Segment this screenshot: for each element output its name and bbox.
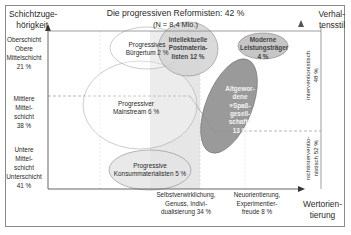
x-axis-label-line1: Wertorien- [303,199,342,210]
y-class-upper-value: 21 % [2,63,46,72]
segment-label-line: listen 12 % [163,53,213,61]
right-label-nichtinterventionist: nichtinterventio- nistisch 52 % [304,126,321,190]
segment-label-altgewordene-spassgesellschaft: Altgewor- dene »Spaß- gesell- schaft« 13… [220,85,260,135]
segment-label-line: 13 % [220,127,260,135]
segment-label-progressiver-mainstream: Progressiver Mainstream 6 % [106,100,166,117]
segment-label-line: Intellektuelle [163,36,213,44]
y-axis-label: Schichtzuge- hörigkeit [9,9,57,32]
segment-label-progressive-konsummaterialisten: Progressive Konsummaterialisten 5 % [108,162,192,179]
x-category-line: dualisierung 34 % [148,208,224,217]
y-class-middle-line: Mittlere [2,95,46,104]
segment-label-line: Mainstream 6 % [106,108,166,116]
segment-label-line: Konsummaterialisten 5 % [108,170,192,178]
right-axis-label: Verhal- tensstil [318,9,345,32]
x-category-line: Selbstverwirklichung, [148,191,224,200]
y-class-upper-line: Mittelschicht [2,54,46,63]
y-class-lower-line: Unterschicht [2,173,46,182]
segment-label-line: 4 % [240,53,286,61]
y-class-lower-line: Mittel- [2,155,46,164]
right-label-upper-value: 48 % [312,45,320,105]
right-label-interventionist: interventionistisch 48 % [304,45,321,105]
y-class-lower-line: schicht [2,164,46,173]
right-axis-label-line2: tensstil [318,20,345,31]
y-class-middle-value: 38 % [2,122,46,131]
x-category-line: Genuss, Indivi- [148,200,224,209]
x-category-line: Neuorientierung, [227,191,287,200]
right-label-lower-line2: nistisch 52 % [312,126,320,190]
segment-label-intellektuelle-postmaterialisten: Intellektuelle Postmateria- listen 12 % [163,36,213,61]
x-category-neuorientierung: Neuorientierung, Experimentier- freude 8… [227,191,287,217]
y-class-middle: Mittlere Mittel- schicht 38 % [2,95,46,131]
y-class-middle-line: Mittel- [2,104,46,113]
segment-label-line: Leistungsträger [240,44,286,52]
segment-label-line: Progressive [108,162,192,170]
y-class-lower-line: Untere [2,146,46,155]
segment-label-line: Progressiver [106,100,166,108]
segment-label-moderne-leistungstraeger: Moderne Leistungsträger 4 % [240,36,286,61]
x-category-line: freude 8 % [227,208,287,217]
right-label-upper-line1: interventionistisch [304,45,312,105]
x-category-selbstverwirklichung: Selbstverwirklichung, Genuss, Indivi- du… [148,191,224,217]
y-axis-label-line2: hörigkeit [0,20,48,31]
segment-label-line: Moderne [240,36,286,44]
segment-label-line: dene [220,93,260,101]
x-axis-label: Wertorien- tierung [303,199,342,222]
y-class-lower: Untere Mittel- schicht Unterschicht 41 % [2,146,46,191]
segment-label-line: Postmateria- [163,44,213,52]
segment-label-line: Altgewor- [220,85,260,93]
y-class-upper-line: Obere [2,45,46,54]
segment-label-line: gesell- [220,110,260,118]
y-class-middle-line: schicht [2,113,46,122]
x-category-line: Experimentier- [227,200,287,209]
segment-label-line: schaft« [220,118,260,126]
y-class-upper-line: Oberschicht [2,36,46,45]
x-axis-label-line2: tierung [303,210,342,221]
y-class-lower-value: 41 % [2,182,46,191]
segment-label-line: »Spaß- [220,102,260,110]
y-class-upper: Oberschicht Obere Mittelschicht 21 % [2,36,46,72]
right-axis-label-line1: Verhal- [318,9,345,20]
right-label-lower-line1: nichtinterventio- [304,126,312,190]
y-axis-label-line1: Schichtzuge- [9,9,57,20]
